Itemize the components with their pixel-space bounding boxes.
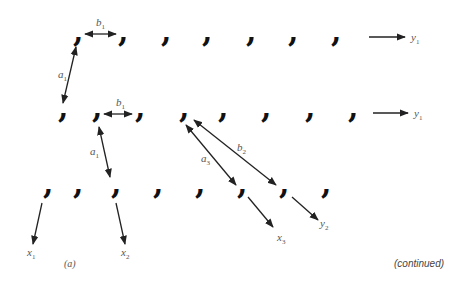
label-out-y2: y2 [319,217,329,232]
arrow-a2 [99,127,110,177]
figure-caption: (a) [64,258,76,270]
arrow-out-y2 [292,197,318,220]
comma-node-icon: , [237,166,247,201]
comma-node-icon: , [161,14,171,49]
diagram-canvas: ,,,,,,,,,,,,,,,,,,,,,,, b1a1b1a1a3b2y1y1… [0,0,470,288]
label-a1: a1 [58,68,68,83]
label-b1-top: b1 [96,16,106,31]
label-a3: a3 [201,152,211,167]
label-b1-mid: b1 [116,96,126,111]
label-a2: a1 [90,145,100,160]
comma-node-icon: , [111,166,121,201]
comma-node-icon: , [202,14,212,49]
continued-label: (continued) [394,258,444,269]
label-out-x3: x3 [276,231,286,246]
comma-node-icon: , [305,90,315,125]
comma-node-icon: , [43,166,53,201]
comma-node-icon: , [279,166,289,201]
label-out-x1: x1 [26,246,36,261]
note-flow-diagram: ,,,,,,,,,,,,,,,,,,,,,,, b1a1b1a1a3b2y1y1… [0,0,470,288]
comma-node-icon: , [348,90,358,125]
comma-node-icon: , [135,90,145,125]
arrow-out-x2 [116,203,125,244]
comma-node-icon: , [153,166,163,201]
comma-node-icon: , [218,90,228,125]
comma-node-icon: , [331,14,341,49]
comma-node-icon: , [118,14,128,49]
comma-node-icon: , [58,90,68,125]
arrow-out-x3 [248,197,273,227]
comma-node-icon: , [179,90,189,125]
edge-layer: b1a1b1a1a3b2y1y1x1x2x3y2 [26,16,423,261]
label-b2: b2 [237,141,247,156]
comma-node-icon: , [73,166,83,201]
comma-node-icon: , [321,166,331,201]
label-out-x2: x2 [120,246,130,261]
comma-node-icon: , [73,14,83,49]
node-layer: ,,,,,,,,,,,,,,,,,,,,,,, [43,14,358,201]
label-out-y1-top: y1 [410,31,420,46]
comma-node-icon: , [246,14,256,49]
arrow-out-x1 [33,203,42,244]
comma-node-icon: , [195,166,205,201]
comma-node-icon: , [288,14,298,49]
comma-node-icon: , [261,90,271,125]
comma-node-icon: , [92,90,102,125]
label-out-y1-mid: y1 [413,107,423,122]
